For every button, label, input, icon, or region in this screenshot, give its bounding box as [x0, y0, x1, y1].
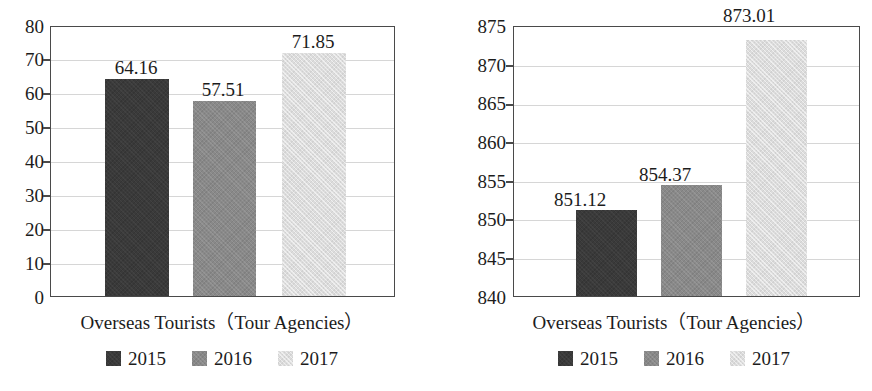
- y-axis-tick: [43, 59, 50, 61]
- legend-item-2015[interactable]: 2015: [106, 349, 166, 368]
- legend-swatch-2015: [558, 351, 573, 366]
- bar-value-label-2015: 64.16: [86, 58, 186, 77]
- legend-left: 2015 2016 2017: [22, 346, 422, 370]
- x-axis-title: Overseas Tourists（Tour Agencies）: [22, 312, 422, 334]
- legend-swatch-2015: [106, 351, 121, 366]
- y-axis-tick: [43, 127, 50, 129]
- legend-label-2015: 2015: [580, 349, 618, 368]
- legend-label-2017: 2017: [300, 349, 338, 368]
- y-axis-tick-label: 865: [442, 94, 506, 113]
- y-axis-tick-label: 860: [442, 133, 506, 152]
- y-axis-tick-label: 845: [442, 249, 506, 268]
- legend-label-2017: 2017: [752, 349, 790, 368]
- legend-swatch-2016: [192, 351, 207, 366]
- y-axis-tick-label: 20: [4, 220, 44, 239]
- y-axis-tick-label: 875: [442, 17, 506, 36]
- legend-swatch-2017: [278, 351, 293, 366]
- y-axis-tick: [506, 104, 513, 106]
- x-axis-title: Overseas Tourists（Tour Agencies）: [476, 312, 872, 334]
- bar-value-label-2016: 57.51: [173, 80, 273, 99]
- y-axis-tick-label: 0: [4, 288, 44, 307]
- y-axis-tick-label: 50: [4, 118, 44, 137]
- bar-2015[interactable]: [576, 210, 637, 296]
- legend-swatch-2016: [644, 351, 659, 366]
- y-axis-tick: [506, 219, 513, 221]
- legend-item-2015[interactable]: 2015: [558, 349, 618, 368]
- gridline: [514, 105, 859, 106]
- y-axis-tick-label: 80: [4, 17, 44, 36]
- chart-panel-left: 80 70 60 50 40 30 20 10 0: [0, 0, 436, 391]
- y-axis-tick: [506, 258, 513, 260]
- bar-2016[interactable]: [193, 101, 256, 296]
- chart-panel-right: 875 870 865 860 855 850 845 840: [436, 0, 872, 391]
- legend-item-2016[interactable]: 2016: [192, 349, 252, 368]
- bar-2015[interactable]: [105, 79, 169, 296]
- y-axis-tick: [506, 65, 513, 67]
- y-axis-tick-label: 70: [4, 50, 44, 69]
- gridline: [514, 66, 859, 67]
- y-axis-tick-label: 840: [442, 288, 506, 307]
- legend-right: 2015 2016 2017: [476, 346, 872, 370]
- y-axis-tick: [43, 161, 50, 163]
- legend-item-2017[interactable]: 2017: [730, 349, 790, 368]
- legend-label-2016: 2016: [666, 349, 704, 368]
- y-axis-tick: [43, 93, 50, 95]
- bar-2017[interactable]: [746, 40, 807, 296]
- y-axis-tick-label: 60: [4, 84, 44, 103]
- legend-swatch-2017: [730, 351, 745, 366]
- bar-value-label-2015: 851.12: [525, 190, 635, 209]
- bar-2016[interactable]: [661, 185, 722, 296]
- y-axis-tick-label: 870: [442, 56, 506, 75]
- legend-label-2015: 2015: [128, 349, 166, 368]
- legend-label-2016: 2016: [214, 349, 252, 368]
- y-axis-tick: [506, 142, 513, 144]
- y-axis-tick-label: 40: [4, 152, 44, 171]
- y-axis-tick-label: 850: [442, 210, 506, 229]
- bar-value-label-2017: 873.01: [694, 6, 804, 25]
- bar-value-label-2016: 854.37: [610, 165, 720, 184]
- y-axis-tick: [43, 229, 50, 231]
- y-axis-tick: [506, 181, 513, 183]
- legend-item-2016[interactable]: 2016: [644, 349, 704, 368]
- y-axis-tick-label: 10: [4, 254, 44, 273]
- bar-value-label-2017: 71.85: [263, 32, 363, 51]
- bar-2017[interactable]: [282, 53, 346, 296]
- y-axis-tick: [43, 263, 50, 265]
- plot-area-right: [513, 26, 860, 297]
- legend-item-2017[interactable]: 2017: [278, 349, 338, 368]
- y-axis-tick: [43, 195, 50, 197]
- gridline: [514, 143, 859, 144]
- y-axis-tick-label: 30: [4, 186, 44, 205]
- dual-bar-chart-figure: 80 70 60 50 40 30 20 10 0: [0, 0, 872, 391]
- y-axis-tick-label: 855: [442, 172, 506, 191]
